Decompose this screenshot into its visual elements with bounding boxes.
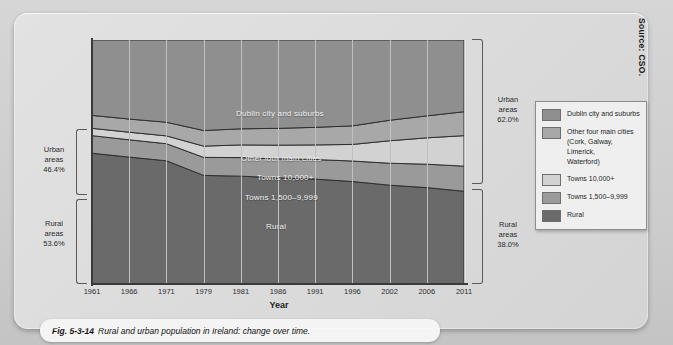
right-urban-annotation: Urban areas 62.0% — [486, 95, 530, 125]
figure-root: Source: CSO. Dublin city and suburbs Oth… — [0, 0, 673, 345]
right-urban-line3: 62.0% — [486, 115, 530, 125]
band-label-towns-1500: Towns 1,500–9,999 — [245, 193, 318, 202]
legend-label-rural: Rural — [567, 210, 584, 220]
x-tick-label: 1991 — [307, 287, 324, 296]
source-note: Source: CSO. — [637, 18, 647, 76]
right-rural-bracket — [472, 189, 483, 284]
left-rural-line1: Rural — [32, 219, 76, 229]
left-urban-line2: areas — [32, 155, 76, 165]
legend-label-towns-1500: Towns 1,500–9,999 — [567, 192, 628, 202]
grid-line-vertical — [129, 40, 130, 284]
figure-panel: Source: CSO. Dublin city and suburbs Oth… — [14, 13, 648, 329]
x-tick-label: 1971 — [158, 287, 175, 296]
x-axis-title: Year — [269, 300, 288, 310]
legend-label-other-cities: Other four main cities (Cork, Galway, Li… — [567, 127, 640, 168]
legend-swatch-other-cities — [542, 127, 561, 139]
band-label-dublin: Dublin city and suburbs — [236, 109, 324, 118]
grid-line-vertical — [166, 40, 167, 284]
legend-label-towns-10000: Towns 10,000+ — [567, 174, 614, 184]
right-rural-line1: Rural — [486, 220, 530, 230]
x-tick-label: 2006 — [418, 287, 435, 296]
right-urban-line2: areas — [486, 105, 530, 115]
x-tick-label: 2002 — [381, 287, 398, 296]
legend-item-dublin: Dublin city and suburbs — [542, 109, 640, 121]
left-rural-annotation: Rural areas 53.6% — [32, 219, 76, 249]
legend-swatch-towns-1500 — [542, 192, 561, 204]
left-rural-line3: 53.6% — [32, 239, 76, 249]
legend-swatch-dublin — [542, 109, 561, 121]
left-rural-bracket — [76, 199, 87, 284]
grid-line-vertical — [390, 40, 391, 284]
legend-swatch-towns-10000 — [542, 174, 561, 186]
figure-number: Fig. 5-3-14 — [52, 326, 94, 336]
left-urban-annotation: Urban areas 46.4% — [32, 145, 76, 175]
legend-label-other-cities-line2: (Cork, Galway, Limerick, — [567, 137, 640, 157]
legend-item-rural: Rural — [542, 210, 640, 222]
grid-line-vertical — [464, 40, 465, 284]
right-rural-annotation: Rural areas 38.0% — [486, 220, 530, 250]
legend-label-dublin: Dublin city and suburbs — [567, 109, 640, 119]
figure-caption: Fig. 5-3-14 Rural and urban population i… — [40, 319, 440, 342]
figure-caption-text: Rural and urban population in Ireland: c… — [98, 326, 310, 336]
left-urban-bracket — [76, 129, 87, 195]
right-rural-line3: 38.0% — [486, 240, 530, 250]
x-tick-label: 2011 — [456, 287, 472, 296]
legend-item-other-cities: Other four main cities (Cork, Galway, Li… — [542, 127, 640, 168]
band-label-other-cities: Other four main cities — [241, 154, 321, 163]
band-label-towns-10000: Towns 10,000+ — [257, 173, 314, 182]
x-tick-label: 1961 — [84, 287, 101, 296]
grid-line-vertical — [352, 40, 353, 284]
legend-item-towns-10000: Towns 10,000+ — [542, 174, 640, 186]
x-tick-label: 1986 — [270, 287, 287, 296]
x-tick-label: 1996 — [344, 287, 361, 296]
legend-item-towns-1500: Towns 1,500–9,999 — [542, 192, 640, 204]
left-urban-line1: Urban — [32, 145, 76, 155]
right-urban-bracket — [472, 39, 483, 184]
grid-line-vertical — [204, 40, 205, 284]
legend-label-other-cities-line1: Other four main cities — [567, 127, 640, 137]
legend-label-other-cities-line3: Waterford) — [567, 157, 640, 167]
band-label-rural: Rural — [266, 222, 286, 231]
x-tick-label: 1979 — [195, 287, 212, 296]
x-tick-label: 1981 — [232, 287, 249, 296]
chart-legend: Dublin city and suburbs Other four main … — [535, 101, 647, 230]
grid-line-vertical — [427, 40, 428, 284]
x-axis-line — [91, 283, 468, 285]
left-urban-line3: 46.4% — [32, 165, 76, 175]
y-axis-line — [91, 38, 93, 286]
right-rural-line2: areas — [486, 230, 530, 240]
x-tick-label: 1966 — [121, 287, 138, 296]
left-rural-line2: areas — [32, 229, 76, 239]
legend-swatch-rural — [542, 210, 561, 222]
right-urban-line1: Urban — [486, 95, 530, 105]
